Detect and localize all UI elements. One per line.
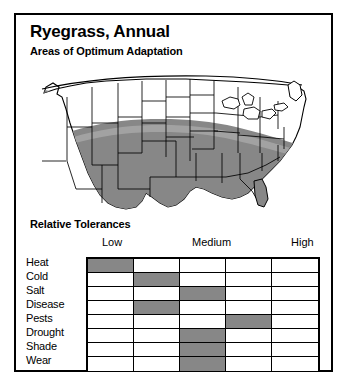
column-header-medium: Medium <box>192 236 231 248</box>
tolerance-cell-drought-5 <box>272 329 318 342</box>
tolerance-row-pests <box>88 315 318 329</box>
tolerance-cell-disease-1 <box>88 301 134 314</box>
column-header-low: Low <box>102 236 122 248</box>
plant-info-card: Ryegrass, Annual Areas of Optimum Adapta… <box>14 13 333 372</box>
tolerance-cell-disease-2 <box>134 301 180 314</box>
adaptation-subtitle: Areas of Optimum Adaptation <box>30 45 183 57</box>
tolerance-cell-heat-3 <box>180 259 226 272</box>
tolerance-cell-salt-2 <box>134 287 180 300</box>
tolerance-cell-cold-1 <box>88 273 134 286</box>
tolerance-cell-heat-1 <box>88 259 134 272</box>
tolerance-cell-heat-2 <box>134 259 180 272</box>
tolerance-cell-drought-2 <box>134 329 180 342</box>
tolerance-cell-disease-5 <box>272 301 318 314</box>
tolerance-cell-wear-5 <box>272 357 318 371</box>
row-label-heat: Heat <box>26 256 84 270</box>
row-label-pests: Pests <box>26 312 84 326</box>
row-label-drought: Drought <box>26 326 84 340</box>
tolerance-cell-pests-2 <box>134 315 180 328</box>
tolerance-cell-pests-4 <box>226 315 272 328</box>
tolerance-cell-wear-1 <box>88 357 134 371</box>
row-label-disease: Disease <box>26 298 84 312</box>
row-label-shade: Shade <box>26 340 84 354</box>
tolerance-cell-wear-2 <box>134 357 180 371</box>
relative-tolerances-title: Relative Tolerances <box>30 218 131 230</box>
tolerance-cell-shade-1 <box>88 343 134 356</box>
tolerance-cell-drought-1 <box>88 329 134 342</box>
tolerance-cell-salt-1 <box>88 287 134 300</box>
tolerance-row-heat <box>88 259 318 273</box>
tolerance-cell-pests-1 <box>88 315 134 328</box>
tolerance-row-labels: Heat Cold Salt Disease Pests Drought Sha… <box>26 256 84 368</box>
us-map-svg <box>26 57 326 217</box>
tolerance-cell-salt-3 <box>180 287 226 300</box>
tolerance-cell-disease-3 <box>180 301 226 314</box>
tolerance-cell-pests-3 <box>180 315 226 328</box>
tolerance-cell-drought-4 <box>226 329 272 342</box>
tolerance-row-cold <box>88 273 318 287</box>
tolerance-row-disease <box>88 301 318 315</box>
column-header-high: High <box>291 236 314 248</box>
florida-outline <box>254 179 268 207</box>
tolerance-cell-cold-3 <box>180 273 226 286</box>
row-label-cold: Cold <box>26 270 84 284</box>
tolerance-cell-shade-4 <box>226 343 272 356</box>
tolerance-cell-heat-5 <box>272 259 318 272</box>
tolerance-grid <box>86 257 320 371</box>
tolerance-cell-shade-3 <box>180 343 226 356</box>
tolerance-cell-pests-5 <box>272 315 318 328</box>
page-title: Ryegrass, Annual <box>30 22 170 42</box>
tolerance-cell-shade-5 <box>272 343 318 356</box>
tolerance-cell-drought-3 <box>180 329 226 342</box>
row-label-salt: Salt <box>26 284 84 298</box>
adaptation-map <box>26 57 326 217</box>
tolerance-cell-disease-4 <box>226 301 272 314</box>
tolerance-row-drought <box>88 329 318 343</box>
row-label-wear: Wear <box>26 354 84 368</box>
tolerance-column-headers: Low Medium High <box>86 236 322 251</box>
tolerance-cell-salt-5 <box>272 287 318 300</box>
tolerance-cell-cold-4 <box>226 273 272 286</box>
tolerance-cell-salt-4 <box>226 287 272 300</box>
tolerance-cell-wear-4 <box>226 357 272 371</box>
tolerance-cell-cold-5 <box>272 273 318 286</box>
tolerance-row-shade <box>88 343 318 357</box>
tolerance-cell-wear-3 <box>180 357 226 371</box>
tolerance-cell-heat-4 <box>226 259 272 272</box>
tolerance-cell-cold-2 <box>134 273 180 286</box>
tolerance-row-salt <box>88 287 318 301</box>
tolerance-cell-shade-2 <box>134 343 180 356</box>
tolerance-row-wear <box>88 357 318 371</box>
